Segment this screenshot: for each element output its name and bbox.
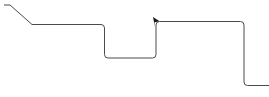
connector-diagram	[0, 0, 269, 97]
orthogonal-connector-path[interactable]	[4, 5, 269, 86]
diagram-canvas	[0, 0, 269, 97]
